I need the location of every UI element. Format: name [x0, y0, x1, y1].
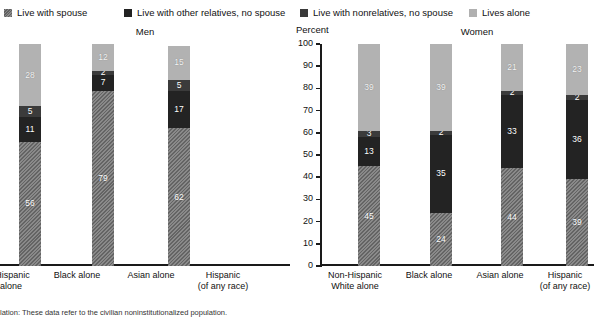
bar-segment: 39	[566, 179, 588, 266]
bar-segment-value: 2	[439, 131, 444, 135]
bar-segment: 24	[430, 213, 452, 266]
bar-segment-value: 12	[98, 53, 107, 62]
chart-panel-women: Percent Women 01020304050607080901004513…	[292, 20, 602, 317]
stacked-bar[interactable]: 3936223	[566, 44, 588, 266]
bar-segment: 11	[19, 117, 41, 141]
y-axis-tick-label: 50	[303, 149, 313, 160]
y-axis-tick-mark	[316, 110, 320, 112]
bar-segment-value: 11	[26, 125, 35, 134]
y-axis-tick-mark	[316, 199, 320, 201]
bar-segment: 15	[168, 46, 190, 79]
y-axis-line	[320, 44, 322, 267]
bar-segment-value: 5	[177, 81, 182, 90]
bar-segment-value: 62	[174, 193, 183, 202]
y-axis-tick-mark	[316, 154, 320, 156]
stacked-bar[interactable]: 797212	[92, 44, 114, 266]
bar-segment: 36	[566, 100, 588, 180]
bar-segment-value: 39	[436, 83, 445, 92]
y-axis-tick-mark	[316, 176, 320, 178]
stacked-bar[interactable]: 6217515	[168, 44, 190, 266]
bar-segment: 3	[358, 131, 380, 138]
y-axis-tick-mark	[316, 243, 320, 245]
bar-segment: 5	[19, 106, 41, 117]
bar-segment: 2	[501, 91, 523, 95]
bar-segment-value: 17	[174, 105, 183, 114]
bar-segment-value: 79	[98, 174, 107, 183]
y-axis-tick-mark	[316, 88, 320, 90]
bar-segment: 39	[430, 44, 452, 131]
bar-segment: 12	[92, 44, 114, 71]
bar-segment-value: 2	[575, 95, 580, 99]
legend-swatch-solid	[300, 9, 308, 17]
y-axis-label-women: Percent	[296, 24, 329, 35]
legend-item-label: Live with spouse	[17, 8, 87, 18]
bar-segment: 35	[430, 135, 452, 213]
chart-title-women: Women	[352, 26, 602, 37]
bar-segment: 45	[358, 166, 380, 266]
bar-segment-value: 21	[507, 63, 516, 72]
legend-item-label: Live with other relatives, no spouse	[137, 8, 285, 18]
bar-segment: 7	[92, 75, 114, 91]
bar-segment-value: 56	[25, 199, 34, 208]
y-axis-tick-mark	[316, 43, 320, 45]
bar-segment: 21	[501, 44, 523, 91]
bar-segment-value: 5	[28, 107, 33, 116]
stacked-bar[interactable]: 4513339	[358, 44, 380, 266]
plot-area-women: 0102030405060708090100451333924352394433…	[320, 44, 594, 266]
y-axis-tick-label: 20	[303, 216, 313, 227]
bar-segment: 56	[19, 142, 41, 266]
bar-segment: 17	[168, 91, 190, 129]
y-axis-tick-label: 10	[303, 238, 313, 249]
legend-swatch-hatched	[4, 9, 12, 17]
bar-segment-value: 2	[510, 91, 515, 95]
bar-segment-value: 28	[25, 71, 34, 80]
bar-segment: 79	[92, 91, 114, 266]
x-axis-category-label: Hispanic (of any race)	[520, 270, 602, 291]
stacked-bar[interactable]: 4433221	[501, 44, 523, 266]
bar-segment-value: 15	[174, 58, 183, 67]
y-axis-tick-label: 100	[298, 38, 313, 49]
bar-segment-value: 36	[572, 135, 581, 144]
bar-segment: 13	[358, 137, 380, 166]
bar-segment: 62	[168, 128, 190, 266]
y-axis-tick-mark	[316, 265, 320, 267]
legend-item-label: Lives alone	[482, 8, 530, 18]
bar-segment-value: 24	[436, 235, 445, 244]
bar-segment-value: 44	[507, 213, 516, 222]
legend-swatch-solid	[124, 9, 132, 17]
bar-segment-value: 7	[101, 78, 106, 87]
bar-segment: 44	[501, 168, 523, 266]
y-axis-tick-mark	[316, 221, 320, 223]
bar-segment: 23	[566, 44, 588, 95]
stacked-bar[interactable]: 5611528	[19, 44, 41, 266]
x-axis-category-label: Hispanic (of any race)	[168, 270, 278, 291]
stacked-bar[interactable]: 2435239	[430, 44, 452, 266]
figure-footnote: lation: These data refer to the civilian…	[0, 308, 602, 317]
bar-segment: 2	[566, 95, 588, 99]
y-axis-tick-label: 90	[303, 60, 313, 71]
y-axis-tick-label: 60	[303, 127, 313, 138]
chart-title-men: Men	[0, 26, 290, 37]
bar-segment-value: 23	[572, 65, 581, 74]
bar-segment: 28	[19, 44, 41, 106]
legend-swatch-solid	[469, 9, 477, 17]
chart-legend: Live with spouseLive with other relative…	[0, 0, 602, 20]
bar-segment-value: 39	[364, 83, 373, 92]
bar-segment: 2	[430, 131, 452, 135]
legend-item-label: Live with nonrelatives, no spouse	[313, 8, 453, 18]
bar-segment: 39	[358, 44, 380, 131]
bar-segment-value: 39	[572, 218, 581, 227]
figure-root: Live with spouseLive with other relative…	[0, 0, 602, 317]
bar-segment: 5	[168, 80, 190, 91]
y-axis-tick-label: 70	[303, 105, 313, 116]
plot-area-men: 54851956115287972126217515	[0, 44, 290, 266]
bar-segment-value: 2	[101, 71, 106, 75]
bar-segment-value: 45	[364, 212, 373, 221]
y-axis-tick-label: 40	[303, 171, 313, 182]
bar-segment: 33	[501, 95, 523, 168]
x-axis-line	[0, 264, 290, 266]
bar-segment-value: 3	[367, 131, 372, 138]
bar-segment-value: 35	[436, 169, 445, 178]
bar-segment-value: 13	[364, 147, 373, 156]
y-axis-tick-mark	[316, 65, 320, 67]
